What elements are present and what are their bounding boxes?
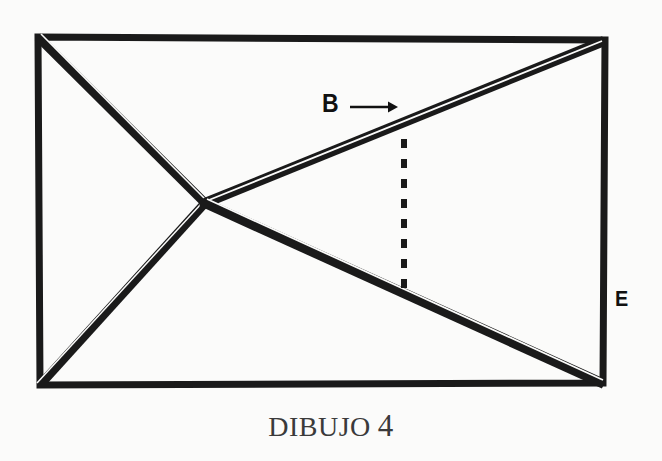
fold-gap-highlight xyxy=(209,41,602,200)
label-b: B xyxy=(322,91,338,116)
fold-stroke-outer xyxy=(205,203,604,384)
caption-word: DIBUJO xyxy=(268,411,371,442)
fold-gap-highlight xyxy=(41,34,206,200)
caption-number: 4 xyxy=(378,408,394,443)
fold-stroke-outer xyxy=(40,203,205,385)
figure-caption: DIBUJO4 xyxy=(0,408,662,444)
arrow-right-icon xyxy=(350,102,398,113)
crease-pattern-diagram xyxy=(0,0,662,461)
fold-gap-highlight xyxy=(37,204,201,383)
figure-container: B E DIBUJO4 xyxy=(0,0,662,461)
fold-line-vertex-to-bottom-left xyxy=(37,203,205,385)
fold-line-vertex-to-top-left xyxy=(38,34,206,203)
arrow-head xyxy=(388,102,398,113)
fold-line-vertex-to-top-right xyxy=(205,41,604,203)
fold-stroke-outer xyxy=(38,37,205,203)
label-e: E xyxy=(615,288,628,310)
